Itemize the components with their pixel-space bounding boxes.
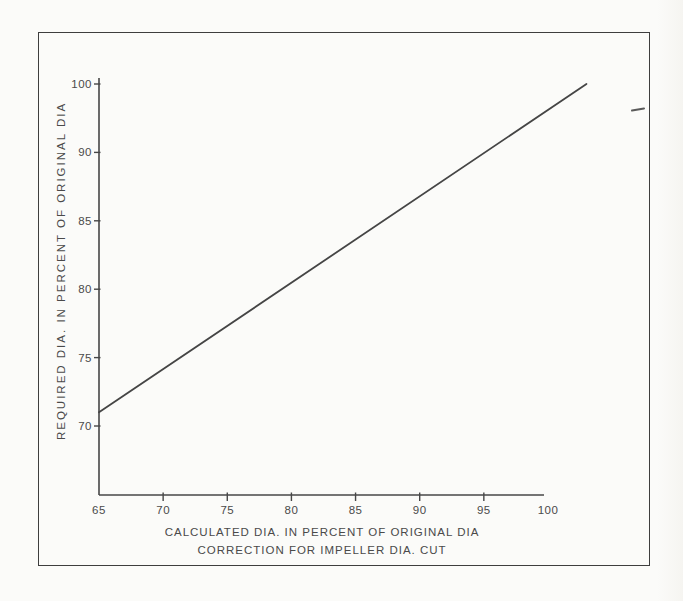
x-axis-subtitle: CORRECTION FOR IMPELLER DIA. CUT [99,544,545,556]
x-tick-label: 65 [92,504,106,516]
x-tick-label: 75 [220,504,234,516]
x-axis-title: CALCULATED DIA. IN PERCENT OF ORIGINAL D… [99,526,545,538]
x-tick-label: 100 [538,504,559,516]
x-tick-label: 80 [285,504,299,516]
y-tick-label: 100 [71,78,92,90]
y-tick-label: 80 [78,283,92,295]
y-axis-title: REQUIRED DIA. IN PERCENT OF ORIGINAL DIA [55,102,67,440]
scanned-chart-page: 657075808590951001009085807570 REQUIRED … [0,0,683,601]
y-tick-label: 70 [78,420,92,432]
y-tick-label: 75 [78,352,92,364]
impeller-dia-correction-line [99,84,586,412]
chart-canvas: 657075808590951001009085807570 [0,0,683,601]
x-tick-label: 90 [413,504,427,516]
y-tick-label: 90 [78,146,92,158]
x-tick-label: 95 [477,504,491,516]
y-tick-label: 85 [78,215,92,227]
x-tick-label: 70 [156,504,170,516]
stray-dash-mark [632,109,644,111]
x-tick-label: 85 [349,504,363,516]
